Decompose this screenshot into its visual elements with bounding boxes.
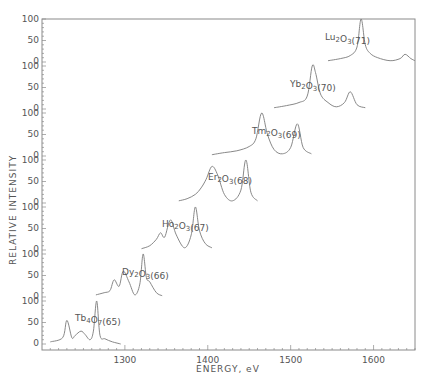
spectra-chart: 1005001005001005001005001005001005001005… <box>0 0 422 375</box>
y-tick-label: 0 <box>33 338 39 348</box>
series-label: Er2O3(68) <box>208 172 252 186</box>
y-tick-label: 100 <box>22 61 39 71</box>
series-label: Tb4O7(65) <box>74 313 121 327</box>
x-tick-label: 1500 <box>279 355 302 365</box>
y-tick-label: 50 <box>28 223 40 233</box>
series-label: Ho2O3(67) <box>162 219 209 233</box>
y-tick-label: 50 <box>28 270 40 280</box>
series-label: Tm2O3(69) <box>251 126 301 140</box>
y-tick-label: 100 <box>22 249 39 259</box>
series-label: Yb2O3(70) <box>289 79 336 93</box>
y-tick-label: 50 <box>28 317 40 327</box>
y-tick-label: 50 <box>28 129 40 139</box>
y-tick-label: 100 <box>22 108 39 118</box>
y-tick-label: 100 <box>22 14 39 24</box>
series-label: Dy2O3(66) <box>122 267 169 281</box>
series-annotations: Tb4O7(65)Dy2O3(66)Ho2O3(67)Er2O3(68)Tm2O… <box>74 32 370 327</box>
x-tick-label: 1300 <box>113 355 136 365</box>
x-axis-title: ENERGY, eV <box>196 364 260 374</box>
y-tick-label: 100 <box>22 202 39 212</box>
y-tick-label: 100 <box>22 296 39 306</box>
x-axis: 1300140015001600 <box>50 345 415 365</box>
y-tick-label: 50 <box>28 35 40 45</box>
y-axis-title: RELATIVE INTENSITY <box>8 155 18 265</box>
y-tick-label: 50 <box>28 176 40 186</box>
y-tick-label: 50 <box>28 82 40 92</box>
x-tick-label: 1600 <box>362 355 385 365</box>
y-tick-label: 100 <box>22 155 39 165</box>
